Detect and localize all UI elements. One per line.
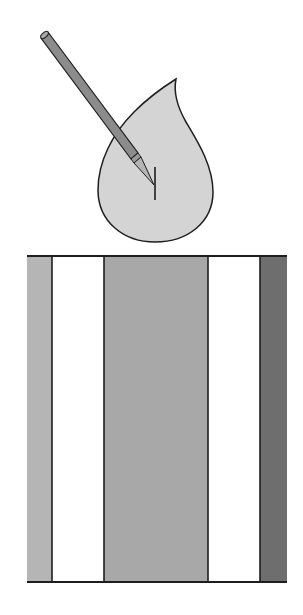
stripe-3 [104, 256, 208, 582]
stripe-2 [52, 256, 104, 582]
stripe-5 [260, 256, 287, 582]
pencil-body [41, 32, 138, 159]
pencil-icon [39, 30, 154, 185]
stripe-1 [27, 256, 52, 582]
striped-block [27, 256, 287, 582]
diagram-canvas [0, 0, 303, 615]
flame-shape [98, 79, 213, 242]
stripe-4 [208, 256, 260, 582]
